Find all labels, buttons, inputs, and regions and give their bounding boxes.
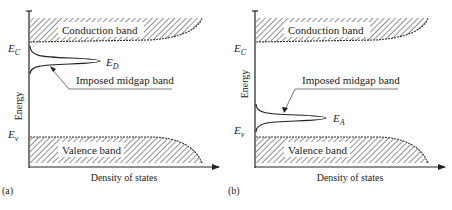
- panel-label-b: (b): [228, 185, 240, 197]
- energy-axis-label: Energy: [13, 92, 24, 121]
- dos-axis-label: Density of states: [317, 172, 384, 183]
- donor-level-peak: [30, 46, 100, 74]
- ec-label: EC: [7, 42, 21, 57]
- annotation-label: Imposed midgap band: [302, 74, 400, 86]
- band-diagram-figure: Conduction band Valence band Imposed mid…: [0, 0, 452, 210]
- annotation-label: Imposed midgap band: [76, 74, 174, 86]
- ec-label: EC: [233, 42, 247, 57]
- acceptor-level-peak: [256, 104, 326, 132]
- panel-a: Conduction band Valence band Imposed mid…: [2, 11, 219, 197]
- valence-band-label: Valence band: [288, 144, 347, 156]
- conduction-band-label: Conduction band: [62, 24, 138, 36]
- conduction-band-label: Conduction band: [288, 24, 364, 36]
- ev-label: Ev: [7, 128, 19, 143]
- annotation-arrowhead: [50, 66, 56, 72]
- ea-label: EA: [332, 112, 345, 127]
- dos-axis-label: Density of states: [91, 172, 158, 183]
- annotation-leader: [285, 89, 398, 110]
- panel-label-a: (a): [2, 185, 13, 197]
- energy-axis-label: Energy: [239, 70, 250, 99]
- ev-label: Ev: [233, 124, 245, 139]
- annotation-arrowhead: [282, 107, 288, 113]
- valence-band-label: Valence band: [62, 144, 121, 156]
- ed-label: ED: [105, 56, 119, 71]
- panel-b: Conduction band Valence band Imposed mid…: [228, 11, 445, 197]
